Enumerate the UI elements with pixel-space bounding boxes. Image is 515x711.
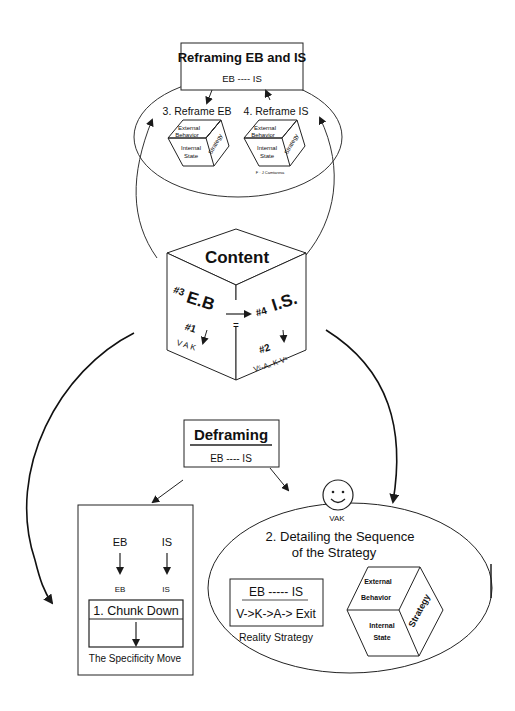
cube-top-text-2: Behavior xyxy=(361,594,391,601)
cube-top-text-1: External xyxy=(364,578,392,585)
deframing-section: Deframing EB ---- IS xyxy=(153,420,288,502)
chunk-down-label: 1. Chunk Down xyxy=(93,604,179,618)
reality-sequence: V->K->A-> Exit xyxy=(236,607,316,621)
deframing-title: Deframing xyxy=(194,426,268,443)
arrow-to-detailing xyxy=(270,468,288,490)
arrow-to-reframe-is xyxy=(266,91,270,100)
reality-strategy-caption: Reality Strategy xyxy=(239,631,314,643)
deframing-subtitle: EB ---- IS xyxy=(210,453,252,464)
reframing-section: Reframing EB and IS EB ---- IS 3. Refram… xyxy=(134,43,342,197)
reality-eb-is: EB ----- IS xyxy=(249,585,303,599)
detailing-title-line2: of the Strategy xyxy=(292,545,377,560)
arrow-to-reframe-eb xyxy=(207,90,212,103)
cube-bottom-text-1: Internal xyxy=(369,622,394,629)
reframing-ellipse xyxy=(134,77,342,197)
step3-label: 3. Reframe EB xyxy=(163,105,232,117)
content-cube: Content #3 E.B = #4 I.S. #1 V A K #2 Vᶜ-… xyxy=(167,229,306,380)
cube-bottom-text-2: State xyxy=(260,153,275,159)
smiley-label: VAK xyxy=(329,514,345,523)
chunk-eb-bottom: EB xyxy=(115,585,126,594)
chunk-is-top: IS xyxy=(162,536,172,548)
reframe-is-cube: External Behavior Internal State Strateg… xyxy=(244,120,305,166)
chunk-eb-top: EB xyxy=(113,536,128,548)
smiley-face xyxy=(323,480,353,510)
cube-bottom-text-2: State xyxy=(373,634,390,641)
chunk-down-section: EB IS EB IS 1. Chunk Down The Specificit… xyxy=(78,505,193,675)
reframing-title: Reframing EB and IS xyxy=(178,50,307,65)
chunk-down-outer-box xyxy=(78,505,193,675)
framing-diagram: Reframing EB and IS EB ---- IS 3. Refram… xyxy=(0,0,515,711)
arrow-to-chunk-down xyxy=(153,480,183,502)
equals-sign: = xyxy=(233,320,239,331)
reframing-subtitle: EB ---- IS xyxy=(222,73,262,84)
detailing-strategy-cube: External Behavior Internal State Strateg… xyxy=(347,567,443,656)
specificity-caption: The Specificity Move xyxy=(89,653,182,664)
cube-top-text-2: Behavior xyxy=(175,132,199,138)
reframing-caption: F · J Camtaresa xyxy=(256,170,285,175)
cube-bottom-text-2: State xyxy=(184,153,199,159)
chunk-is-bottom: IS xyxy=(162,585,170,594)
arrow-content-to-reframe-left xyxy=(136,120,157,258)
cube-top-text-1: External xyxy=(178,125,200,131)
detailing-section: VAK 2. Detailing the Sequence of the Str… xyxy=(208,480,492,673)
content-title: Content xyxy=(205,248,270,267)
cube-top-text-2: Behavior xyxy=(251,132,275,138)
detailing-title-line1: 2. Detailing the Sequence xyxy=(266,529,415,544)
reframe-eb-cube: External Behavior Internal State Strateg… xyxy=(168,120,229,166)
cube-top-text-1: External xyxy=(254,125,276,131)
cube-bottom-text-1: Internal xyxy=(257,145,277,151)
arrow-content-to-detailing xyxy=(326,330,397,502)
step4-label: 4. Reframe IS xyxy=(244,105,309,117)
arrow-content-to-reframe-right xyxy=(306,118,334,255)
cube-bottom-text-1: Internal xyxy=(181,145,201,151)
